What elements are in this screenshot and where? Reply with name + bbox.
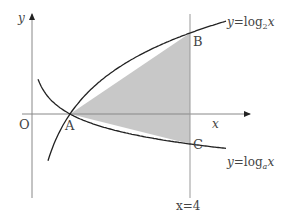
curve-loga-label: y=logax bbox=[226, 155, 274, 171]
y-axis-label: y bbox=[17, 11, 25, 25]
point-b-label: B bbox=[193, 34, 203, 49]
vertical-line-label: x=4 bbox=[176, 199, 201, 213]
shaded-triangle-abc bbox=[70, 33, 190, 144]
point-c-label: C bbox=[193, 137, 203, 152]
curve-log2-label: y=y=loglog2x bbox=[226, 15, 275, 31]
origin-label: O bbox=[19, 117, 30, 132]
x-axis-label: x bbox=[212, 117, 219, 131]
point-a-label: A bbox=[64, 118, 75, 133]
diagram-canvas: y x O A B C y=y=loglog2x y=logax x=4 bbox=[0, 0, 289, 222]
